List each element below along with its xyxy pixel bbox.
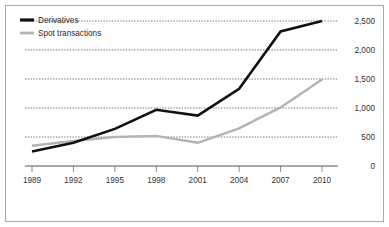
x-axis-labels-group: 19891992199519982001200420072010 (23, 176, 332, 185)
x-axis-tick-label: 1995 (106, 176, 125, 185)
line-chart: 05001,0001,5002,0002,500 198919921995199… (0, 0, 389, 227)
y-axis-tick-label: 500 (361, 133, 375, 142)
y-axis-tick-label: 2,000 (355, 46, 376, 55)
x-axis-tick-label: 1998 (147, 176, 166, 185)
y-axis-tick-label: 2,500 (355, 17, 376, 26)
x-axis-tick-label: 2004 (230, 176, 249, 185)
y-axis-labels-group: 05001,0001,5002,0002,500 (355, 17, 376, 171)
legend-label-derivatives: Derivatives (38, 16, 79, 25)
x-axis-tick-label: 2007 (271, 176, 290, 185)
x-axis-tick-label: 1989 (23, 176, 42, 185)
x-axis-tick-label: 2010 (313, 176, 332, 185)
series-group (32, 21, 322, 152)
legend: Derivatives Spot transactions (20, 16, 101, 38)
y-axis-tick-label: 1,000 (355, 104, 376, 113)
legend-label-spot-transactions: Spot transactions (38, 29, 101, 38)
chart-figure: 05001,0001,5002,0002,500 198919921995199… (0, 0, 389, 227)
gridlines-group (25, 21, 338, 137)
x-axis-tick-label: 2001 (189, 176, 208, 185)
x-tick-marks-group (32, 166, 322, 172)
series-line-derivatives (32, 21, 322, 152)
y-axis-tick-label: 1,500 (355, 75, 376, 84)
x-axis-tick-label: 1992 (64, 176, 83, 185)
y-axis-tick-label: 0 (370, 162, 375, 171)
